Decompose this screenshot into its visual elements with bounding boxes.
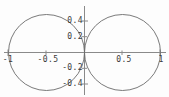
y-tick-label-0-4: 0.4 (67, 17, 83, 25)
x-tick-label-1: 1 (158, 56, 163, 64)
plot-figure: -1 -0.5 0.5 1 0.4 0.2 -0.2 -0.4 (0, 0, 169, 97)
plot-canvas (0, 0, 169, 97)
x-tick-label-neg1: -1 (3, 56, 13, 64)
y-tick-label-neg0-4: -0.4 (62, 80, 83, 88)
y-tick-label-neg0-2: -0.2 (62, 64, 83, 72)
x-tick-label-0-5: 0.5 (116, 56, 132, 64)
y-tick-label-0-2: 0.2 (67, 33, 83, 41)
x-tick-label-neg0-5: -0.5 (38, 56, 59, 64)
